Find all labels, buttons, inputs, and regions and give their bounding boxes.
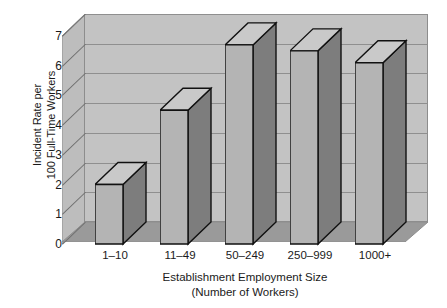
x-axis-title: Establishment Employment Size (Number of… [62,270,428,300]
plot-area [62,14,428,242]
x-axis-title-line-2: (Number of Workers) [62,285,428,300]
x-axis-tick-label: 50–249 [210,248,280,262]
x-axis-tick-label: 1–10 [80,248,150,262]
bar-3d-shape [160,14,213,246]
bar-column[interactable] [355,14,406,244]
y-axis-tick-label: 6 [40,60,62,72]
bar-chart: Incident Rate per 100 Full-Time Workers … [0,0,447,308]
x-axis-title-line-1: Establishment Employment Size [62,270,428,285]
bar-3d-shape [290,14,343,246]
bar-3d-shape [95,14,148,246]
bar-front-face [225,45,253,244]
bar-side-face [253,23,276,244]
y-axis-tick-label: 4 [40,119,62,131]
y-axis-tick-label: 7 [40,30,62,42]
bar-column[interactable] [160,14,211,244]
x-axis-tick-label: 1000+ [340,248,410,262]
bar-front-face [160,110,188,244]
bar-side-face [383,41,406,244]
x-axis-tick-label: 11–49 [145,248,215,262]
x-axis-tick-label: 250–999 [275,248,345,262]
bar-column[interactable] [290,14,341,244]
bar-column[interactable] [95,14,146,244]
bar-3d-shape [355,14,408,246]
y-axis-tick-label: 0 [40,238,62,250]
bar-front-face [290,51,318,244]
bar-front-face [355,63,383,244]
y-axis-tick-label: 3 [40,149,62,161]
bar-front-face [95,185,123,244]
y-axis-tick-label: 1 [40,208,62,220]
bar-side-face [318,29,341,244]
y-axis-tick-label: 5 [40,89,62,101]
bar-column[interactable] [225,14,276,244]
y-axis-tick-labels: 01234567 [38,0,62,308]
x-axis-tick-labels: 1–1011–4950–249250–9991000+ [62,248,428,264]
y-axis-tick-label: 2 [40,179,62,191]
bar-side-face [188,88,211,244]
bar-3d-shape [225,14,278,246]
